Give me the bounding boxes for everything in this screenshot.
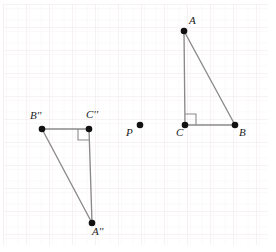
label-point-B2-primes: '' [37, 109, 42, 121]
label-point-C2-primes: '' [93, 108, 98, 120]
point-P [137, 122, 144, 129]
label-point-A2-text: A [92, 225, 99, 237]
label-point-C-double-prime: C'' [86, 109, 98, 120]
label-point-C-text: C [176, 126, 183, 138]
label-point-P-text: P [126, 126, 133, 138]
label-point-A2-primes: '' [99, 225, 104, 237]
label-point-A-double-prime: A'' [92, 226, 103, 237]
point-A [181, 28, 188, 35]
label-point-B: B [239, 127, 246, 138]
label-point-B-text: B [239, 126, 246, 138]
label-point-B2-text: B [30, 109, 37, 121]
point-C-double-prime [86, 126, 93, 133]
label-point-B-double-prime: B'' [30, 110, 41, 121]
figure-canvas [0, 0, 276, 252]
label-point-P: P [126, 127, 133, 138]
label-point-C: C [176, 127, 183, 138]
point-B [232, 122, 239, 129]
geometry-figure: A B C P B'' C'' A'' [0, 0, 276, 252]
point-B-double-prime [39, 126, 46, 133]
label-point-A: A [189, 15, 196, 26]
label-point-A-text: A [189, 14, 196, 26]
